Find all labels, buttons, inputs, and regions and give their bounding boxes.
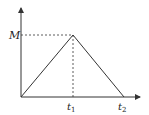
y-label-m: M — [8, 29, 21, 42]
x-tick-t1: t1 — [67, 101, 76, 114]
triangle-diagram: M t1 t2 — [0, 0, 149, 115]
triangle-curve — [21, 35, 124, 97]
x-tick-t2: t2 — [118, 101, 127, 114]
